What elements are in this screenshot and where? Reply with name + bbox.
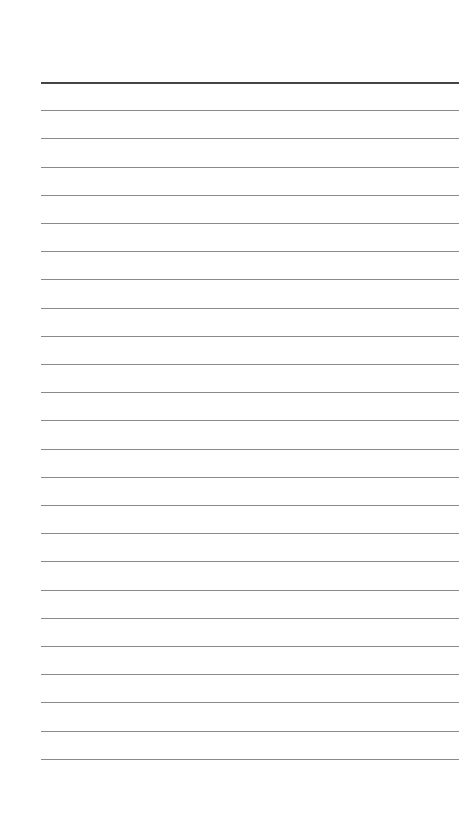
- rule-line: [41, 533, 459, 534]
- rule-line: [41, 449, 459, 450]
- rule-line: [41, 590, 459, 591]
- rule-line: [41, 420, 459, 421]
- rule-line: [41, 646, 459, 647]
- rule-line: [41, 477, 459, 478]
- rule-line: [41, 731, 459, 732]
- rule-line: [41, 167, 459, 168]
- rule-line: [41, 195, 459, 196]
- rule-line: [41, 759, 459, 760]
- notepad-page: [0, 0, 466, 818]
- rule-line: [41, 251, 459, 252]
- rule-line: [41, 138, 459, 139]
- rule-line: [41, 618, 459, 619]
- rule-line: [41, 308, 459, 309]
- rule-line: [41, 279, 459, 280]
- rule-line: [41, 110, 459, 111]
- rule-line: [41, 223, 459, 224]
- header-rule-line: [41, 82, 459, 84]
- rule-line: [41, 505, 459, 506]
- rule-line: [41, 392, 459, 393]
- rule-line: [41, 702, 459, 703]
- rule-line: [41, 364, 459, 365]
- rule-line: [41, 561, 459, 562]
- rule-line: [41, 336, 459, 337]
- rule-line: [41, 674, 459, 675]
